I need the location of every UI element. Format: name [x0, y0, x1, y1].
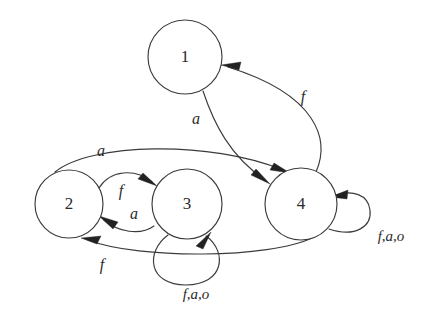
state-label-2: 2 — [65, 194, 74, 213]
state-node-2[interactable]: 2 — [35, 170, 103, 238]
state-node-1[interactable]: 1 — [148, 20, 222, 94]
transition-2-to-3 — [99, 173, 157, 188]
edge-label-2-to-4: a — [97, 142, 105, 159]
edge-path-1-to-4 — [203, 91, 265, 180]
state-label-3: 3 — [183, 194, 192, 213]
edge-label-4-to-2: f — [100, 256, 107, 274]
edge-label-2-to-3: f — [119, 182, 126, 200]
arrow-head-4-to-1 — [221, 62, 241, 70]
state-machine-diagram: 1 2 3 4 a f a f f a f,a,o f,a,o — [0, 0, 432, 317]
transition-2-to-4 — [55, 149, 290, 173]
transition-4-to-2 — [81, 236, 312, 254]
edge-label-4-self-loop: f,a,o — [378, 228, 405, 244]
edge-label-1-to-4: a — [192, 110, 200, 127]
state-label-4: 4 — [297, 194, 306, 213]
edge-path-3-self-loop — [153, 235, 219, 285]
state-label-1: 1 — [181, 47, 190, 66]
state-node-4[interactable]: 4 — [265, 168, 337, 240]
transition-3-self-loop — [153, 232, 219, 285]
edge-label-4-to-1: f — [301, 88, 308, 106]
edge-label-3-self-loop: f,a,o — [183, 286, 210, 302]
edge-path-4-to-1 — [228, 67, 321, 172]
diagram-canvas: 1 2 3 4 a f a f f a f,a,o f,a,o — [0, 0, 432, 317]
edge-label-3-to-2: a — [130, 205, 138, 222]
transition-1-to-4 — [203, 91, 270, 184]
transition-3-to-2 — [99, 216, 154, 232]
edge-path-2-to-4 — [55, 149, 283, 172]
state-node-3[interactable]: 3 — [152, 169, 222, 239]
transition-4-to-1 — [221, 62, 321, 172]
